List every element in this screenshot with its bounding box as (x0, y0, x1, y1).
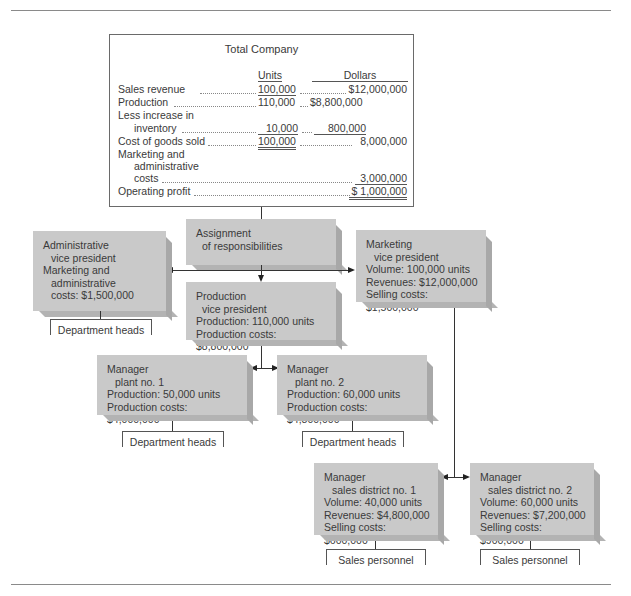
department-heads-label: Department heads (302, 431, 404, 447)
arrow-right-icon (348, 267, 355, 273)
connector (261, 207, 262, 219)
department-heads-label: Department heads (50, 319, 152, 335)
sales-district-2-box: Manager sales district no. 2 Volume: 60,… (470, 463, 594, 535)
plant-1-box: Manager plant no. 1 Production: 50,000 u… (97, 355, 247, 415)
plant-2-box: Manager plant no. 2 Production: 60,000 u… (277, 355, 427, 415)
sales-personnel-label: Sales personnel (326, 549, 426, 565)
statement-title: Total Company (110, 43, 413, 55)
arrow-right-icon (463, 474, 470, 480)
total-company-statement: Total Company Units Dollars Sales revenu… (109, 34, 414, 207)
sales-personnel-label: Sales personnel (480, 549, 580, 565)
department-heads-label: Department heads (122, 431, 224, 447)
units-header: Units (258, 69, 282, 82)
assignment-box: Assignment of responsibilities (186, 219, 336, 265)
marketing-vp-box: Marketing vice president Volume: 100,000… (356, 230, 486, 302)
sales-district-1-box: Manager sales district no. 1 Volume: 40,… (314, 463, 438, 535)
dollars-header: Dollars (312, 69, 408, 82)
top-rule (11, 10, 611, 11)
bottom-rule (11, 584, 611, 585)
production-vp-box: Production vice president Production: 11… (186, 282, 336, 340)
admin-vp-box: Administrative vice president Marketing … (33, 231, 166, 311)
arrow-down-icon (258, 275, 264, 282)
